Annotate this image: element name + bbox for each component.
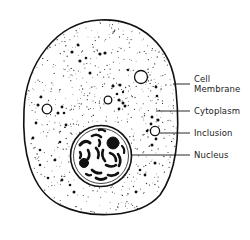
inclusion-left <box>42 104 52 114</box>
label-cell-membrane-line2: Membrane <box>194 84 240 94</box>
label-nucleus-text: Nucleus <box>194 150 229 160</box>
label-nucleus: Nucleus <box>194 150 229 160</box>
label-inclusion: Inclusion <box>194 128 233 138</box>
inclusion-large <box>135 71 148 84</box>
label-cytoplasm: Cytoplasm <box>194 106 240 116</box>
label-cell-membrane-line1: Cell <box>194 74 240 84</box>
label-cell-membrane: Cell Membrane <box>194 74 240 94</box>
inclusion-labeled <box>150 126 159 135</box>
inclusion-small <box>104 96 112 104</box>
nucleus <box>71 126 132 187</box>
label-inclusion-text: Inclusion <box>194 128 233 138</box>
label-cytoplasm-text: Cytoplasm <box>194 106 240 116</box>
